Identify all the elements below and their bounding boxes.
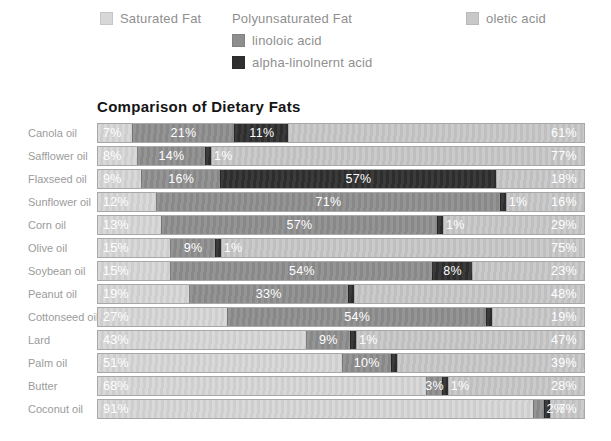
alpha-linolnernt-acid-label: alpha-linolnernt acid <box>252 55 373 70</box>
segment-oletic-acid: 18% <box>496 170 584 188</box>
saturated-fat-label: Saturated Fat <box>120 11 201 26</box>
category-label: Corn oil <box>0 215 97 235</box>
value-label: 91% <box>98 402 129 416</box>
value-label: 18% <box>551 172 584 186</box>
segment-linoloic-acid: 3% <box>426 377 441 395</box>
stacked-bar: 12%71%1%16% <box>97 192 585 212</box>
chart-title: Comparison of Dietary Fats <box>97 98 301 115</box>
value-label: 14% <box>158 149 184 163</box>
category-label: Safflower oil <box>0 146 97 166</box>
value-label: 10% <box>354 356 380 370</box>
value-label: 61% <box>551 126 584 140</box>
segment-saturated-fat: 15% <box>98 262 170 280</box>
segment-saturated-fat: 51% <box>98 354 342 372</box>
category-label: Peanut oil <box>0 284 97 304</box>
value-label: 8% <box>98 149 122 163</box>
value-label: 51% <box>98 356 129 370</box>
category-label: Palm oil <box>0 353 97 373</box>
value-label: 7% <box>558 402 584 416</box>
segment-linoloic-acid: 9% <box>306 331 350 349</box>
category-label: Flaxseed oil <box>0 169 97 189</box>
value-label: 9% <box>319 333 338 347</box>
chart-row: Soybean oil15%54%8%23% <box>0 261 585 281</box>
segment-linoloic-acid: 57% <box>161 216 437 234</box>
value-label: 9% <box>184 241 203 255</box>
segment-linoloic-acid: 54% <box>227 308 486 326</box>
value-label: 57% <box>286 218 312 232</box>
value-label: 54% <box>344 310 370 324</box>
segment-oletic-acid: 23% <box>472 262 584 280</box>
segment-saturated-fat: 13% <box>98 216 161 234</box>
value-label: 1% <box>446 218 465 232</box>
value-label: 57% <box>345 172 371 186</box>
value-label: 28% <box>551 379 584 393</box>
legend-item-linoloic-acid: linoloic acid <box>232 32 373 48</box>
alpha-linolnernt-acid-swatch-icon <box>232 56 245 69</box>
category-label: Canola oil <box>0 123 97 143</box>
value-label: 13% <box>98 218 129 232</box>
chart-row: Corn oil13%57%1%29% <box>0 215 585 235</box>
stacked-bar: 19%33%48% <box>97 284 585 304</box>
stacked-bar: 43%9%1%47% <box>97 330 585 350</box>
linoloic-acid-swatch-icon <box>232 34 245 47</box>
segment-oletic-acid: 39% <box>397 354 584 372</box>
value-label: 1% <box>359 333 378 347</box>
segment-linoloic-acid: 2% <box>533 400 544 418</box>
value-label: 1% <box>214 149 233 163</box>
segment-oletic-acid: 48% <box>354 285 584 303</box>
oletic-acid-label: oletic acid <box>486 11 546 26</box>
stacked-bar: 91%2%7% <box>97 399 585 419</box>
value-label: 1% <box>451 379 470 393</box>
legend-polyunsaturated-fat: Polyunsaturated Fat linoloic acid alpha-… <box>232 10 373 76</box>
value-label: 1% <box>224 241 243 255</box>
value-label: 15% <box>98 241 129 255</box>
stacked-bar: 8%14%1%77% <box>97 146 585 166</box>
segment-alpha-linolnernt-acid: 57% <box>220 170 496 188</box>
value-label: 3% <box>425 379 444 393</box>
value-label: 47% <box>551 333 584 347</box>
stacked-bar: 7%21%11%61% <box>97 123 585 143</box>
segment-linoloic-acid: 33% <box>189 285 348 303</box>
chart-row: Palm oil51%10%39% <box>0 353 585 373</box>
segment-saturated-fat: 27% <box>98 308 227 326</box>
segment-oletic-acid: 47% <box>356 331 584 349</box>
value-label: 11% <box>249 126 274 140</box>
segment-linoloic-acid: 10% <box>342 354 391 372</box>
page: Saturated Fat Polyunsaturated Fat linolo… <box>0 0 611 441</box>
segment-oletic-acid: 19% <box>492 308 584 326</box>
value-label: 54% <box>289 264 315 278</box>
segment-linoloic-acid: 9% <box>170 239 214 257</box>
value-label: 8% <box>443 264 462 278</box>
segment-alpha-linolnernt-acid: 11% <box>234 124 288 142</box>
polyunsaturated-fat-header: Polyunsaturated Fat <box>232 10 373 26</box>
segment-oletic-acid: 77% <box>211 147 584 165</box>
value-label: 75% <box>551 241 584 255</box>
segment-saturated-fat: 8% <box>98 147 137 165</box>
segment-oletic-acid: 75% <box>221 239 584 257</box>
segment-saturated-fat: 91% <box>98 400 533 418</box>
segment-linoloic-acid: 54% <box>170 262 432 280</box>
value-label: 12% <box>98 195 129 209</box>
value-label: 1% <box>509 195 528 209</box>
stacked-bar: 9%16%57%18% <box>97 169 585 189</box>
value-label: 16% <box>168 172 194 186</box>
legend-oletic-acid: oletic acid <box>466 10 546 32</box>
stacked-bar: 27%54%19% <box>97 307 585 327</box>
segment-linoloic-acid: 16% <box>141 170 219 188</box>
segment-saturated-fat: 19% <box>98 285 189 303</box>
value-label: 39% <box>551 356 584 370</box>
category-label: Butter <box>0 376 97 396</box>
segment-saturated-fat: 43% <box>98 331 306 349</box>
chart-row: Safflower oil8%14%1%77% <box>0 146 585 166</box>
linoloic-acid-label: linoloic acid <box>252 33 322 48</box>
segment-saturated-fat: 7% <box>98 124 132 142</box>
segment-oletic-acid: 61% <box>288 124 584 142</box>
chart-row: Butter68%3%1%28% <box>0 376 585 396</box>
value-label: 77% <box>551 149 584 163</box>
saturated-fat-swatch-icon <box>100 12 113 25</box>
oletic-acid-swatch-icon <box>466 12 479 25</box>
value-label: 23% <box>551 264 584 278</box>
category-label: Cottonseed oil <box>0 307 97 327</box>
stacked-bar: 15%9%1%75% <box>97 238 585 258</box>
chart-row: Sunflower oil12%71%1%16% <box>0 192 585 212</box>
